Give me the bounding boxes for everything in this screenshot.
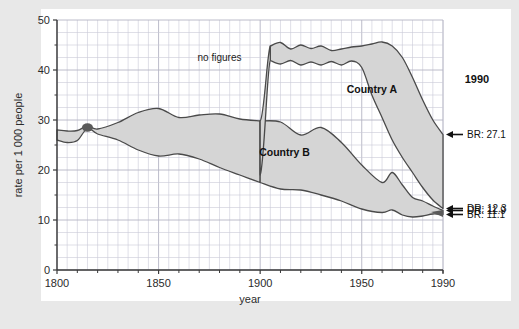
x-tick-label: 1800 xyxy=(45,277,69,289)
callout-label: BR: 27.1 xyxy=(467,129,506,140)
y-tick-label: 50 xyxy=(38,14,50,26)
callout-label: BR: 11.1 xyxy=(467,209,506,220)
annotation-no-figures: no figures xyxy=(198,52,242,63)
y-axis-title: rate per 1 000 people xyxy=(12,93,24,198)
chart-figure: 0102030405018001850190019501990rate per … xyxy=(0,0,519,329)
x-tick-label: 1900 xyxy=(248,277,272,289)
y-tick-label: 30 xyxy=(38,114,50,126)
annotation-country-a: Country A xyxy=(347,83,398,95)
y-tick-label: 20 xyxy=(38,164,50,176)
x-tick-label: 1950 xyxy=(349,277,373,289)
demographic-transition-chart: 0102030405018001850190019501990rate per … xyxy=(0,0,519,329)
y-tick-label: 10 xyxy=(38,214,50,226)
x-tick-label: 1850 xyxy=(146,277,170,289)
annotation-country-b: Country B xyxy=(259,146,310,158)
annotation-year-1990: 1990 xyxy=(465,73,489,85)
y-tick-label: 40 xyxy=(38,64,50,76)
x-tick-label: 1990 xyxy=(431,277,455,289)
y-tick-label: 0 xyxy=(44,264,50,276)
crossover-marker-1815 xyxy=(82,123,93,131)
x-axis-title: year xyxy=(239,293,261,305)
